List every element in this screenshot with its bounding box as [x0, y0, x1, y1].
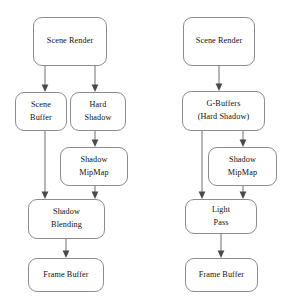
node-label: Scene: [31, 99, 51, 112]
node-shadow-mipmap-left[interactable]: Shadow MipMap: [60, 147, 128, 186]
node-label: Shadow: [81, 154, 108, 167]
node-label: Shadow: [229, 154, 256, 167]
node-label-line2: Shadow: [85, 112, 112, 125]
arrowhead-g-buffers: [216, 84, 223, 92]
node-label-line2: (Hard Shadow): [198, 111, 250, 124]
arrowhead-shadow-mipmap-left: [92, 140, 99, 148]
arrowhead-light-pass-b: [240, 192, 247, 200]
node-scene-buffer[interactable]: Scene Buffer: [15, 92, 67, 131]
node-shadow-mipmap-right[interactable]: Shadow MipMap: [208, 147, 277, 186]
node-shadow-blending[interactable]: Shadow Blending: [28, 199, 105, 239]
node-label: G-Buffers: [207, 98, 241, 111]
node-label: Light: [212, 204, 230, 217]
node-label-line2: Blending: [51, 219, 82, 232]
node-label: Scene Render: [196, 35, 242, 48]
arrowhead-light-pass-a: [199, 192, 206, 200]
arrowhead-frame-buffer-left: [63, 251, 70, 259]
node-label-line2: MipMap: [79, 167, 108, 180]
node-hard-shadow[interactable]: Hard Shadow: [70, 92, 126, 131]
node-frame-buffer-left[interactable]: Frame Buffer: [28, 258, 104, 292]
node-frame-buffer-right[interactable]: Frame Buffer: [185, 258, 258, 292]
node-scene-render-left[interactable]: Scene Render: [33, 17, 107, 66]
node-label-line2: MipMap: [228, 167, 257, 180]
node-label: Frame Buffer: [199, 269, 244, 282]
node-scene-render-right[interactable]: Scene Render: [183, 17, 255, 66]
arrowhead-hard-shadow: [92, 85, 99, 93]
arrowhead-shadow-blending-a: [42, 192, 49, 200]
node-light-pass[interactable]: Light Pass: [185, 199, 257, 234]
arrowhead-shadow-blending-b: [92, 192, 99, 200]
node-label: Scene Render: [47, 35, 93, 48]
diagram-canvas: Scene Render Scene Buffer Hard Shadow Sh…: [0, 0, 298, 306]
arrowhead-frame-buffer-right: [218, 251, 225, 259]
node-label-line2: Buffer: [30, 112, 52, 125]
arrowhead-shadow-mipmap-right: [240, 140, 247, 148]
arrowhead-scene-buffer: [42, 85, 49, 93]
node-label-line2: Pass: [214, 217, 229, 230]
node-label: Hard: [90, 99, 107, 112]
node-g-buffers[interactable]: G-Buffers (Hard Shadow): [182, 91, 265, 131]
node-label: Frame Buffer: [43, 269, 88, 282]
node-label: Shadow: [53, 206, 80, 219]
